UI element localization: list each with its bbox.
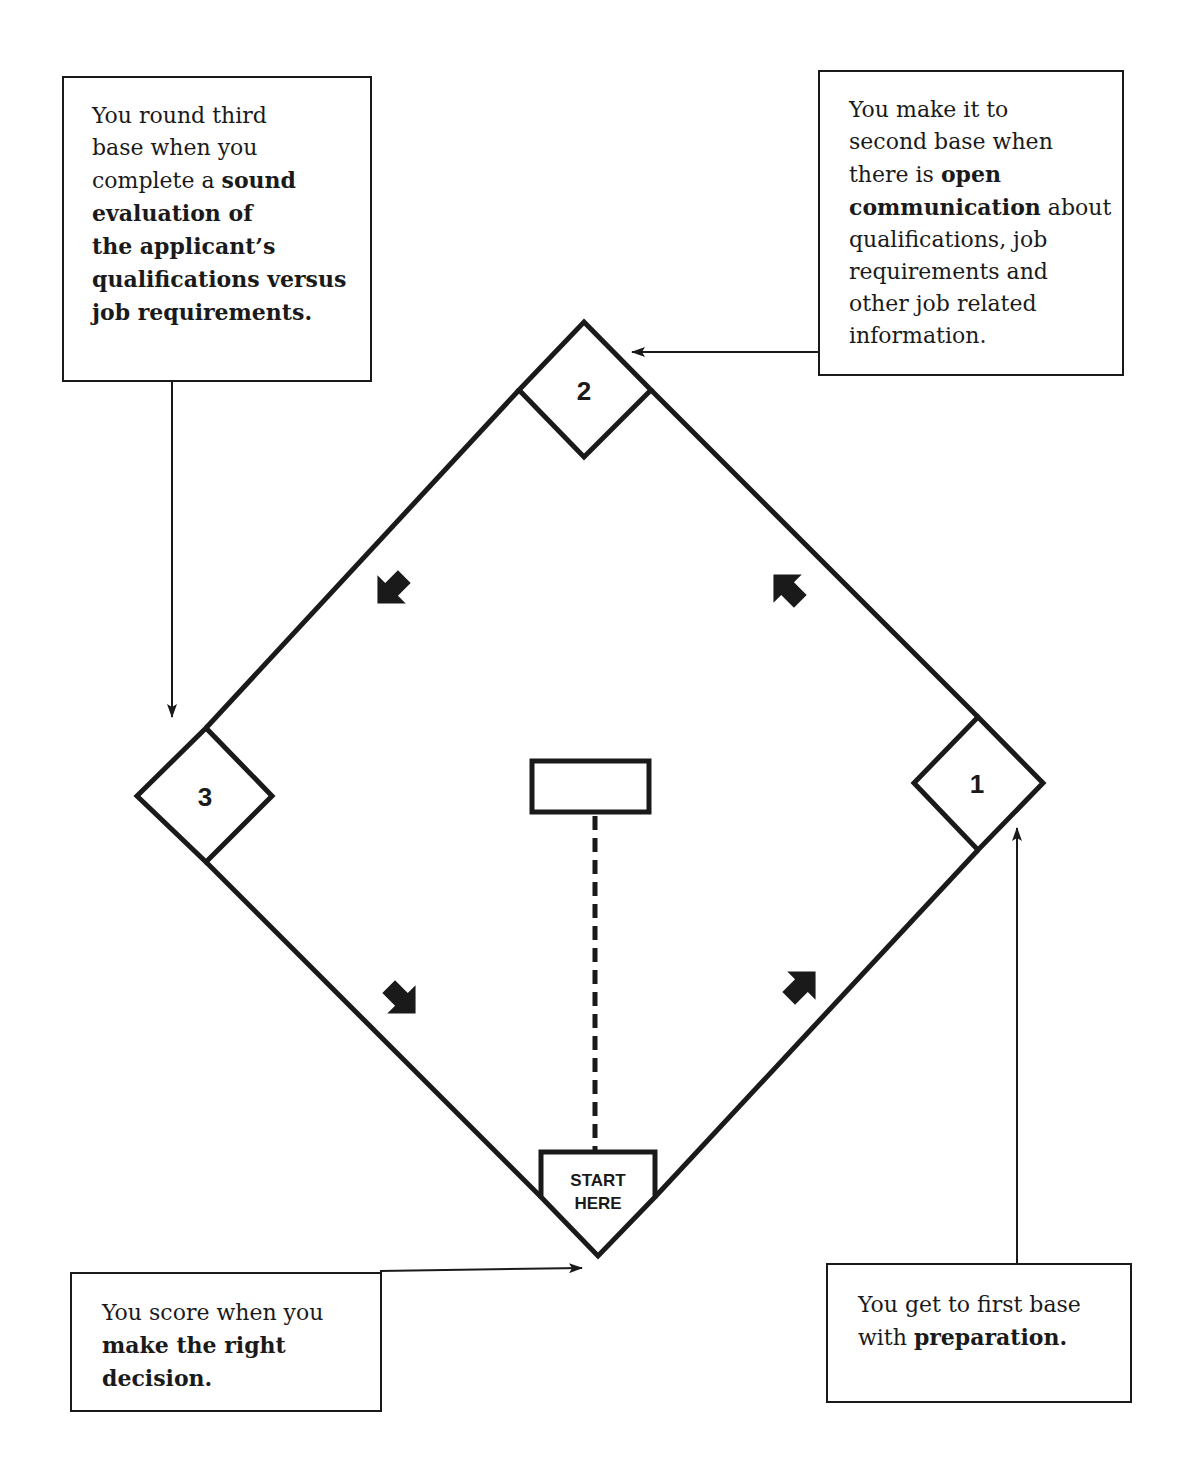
second-base-label: 2 [577, 376, 591, 406]
first-base[interactable]: 1 [914, 717, 1043, 850]
callout-line: decision. [102, 1362, 380, 1395]
callout-first-base: You get to first basewith preparation. [826, 1263, 1132, 1403]
pitchers-mound [532, 761, 649, 812]
callout-line: You get to first base [858, 1289, 1130, 1321]
callout-home: You score when youmake the rightdecision… [70, 1272, 382, 1412]
direction-arrow-icon [775, 957, 830, 1012]
callout-line: evaluation of [92, 197, 370, 230]
third-base[interactable]: 3 [137, 728, 272, 862]
direction-arrow-icon [375, 973, 430, 1028]
second-base[interactable]: 2 [519, 322, 651, 457]
callout-second-base: You make it tosecond base whenthere is o… [818, 70, 1124, 376]
direction-arrow-icon [759, 560, 814, 615]
home-plate-label-line2: HERE [574, 1194, 621, 1213]
callout-line: base when you [92, 132, 370, 164]
callout-line: job requirements. [92, 296, 370, 329]
callout-line: with preparation. [858, 1321, 1130, 1354]
callout-line: You round third [92, 100, 370, 132]
callout-line: there is open [849, 158, 1122, 191]
callout-line: complete a sound [92, 164, 370, 197]
callout-third-base: You round thirdbase when youcomplete a s… [62, 76, 372, 382]
home-plate-label-line1: START [570, 1171, 626, 1190]
callout-line: the applicant’s [92, 230, 370, 263]
callout-line: other job related [849, 288, 1122, 320]
callout-line: qualifications versus [92, 263, 370, 296]
callout-line: requirements and [849, 256, 1122, 288]
callout-line: You make it to [849, 94, 1122, 126]
connector-home [380, 1268, 582, 1271]
callout-line: qualifications, job [849, 224, 1122, 256]
callout-line: information. [849, 320, 1122, 352]
callout-line: second base when [849, 126, 1122, 158]
callout-line: communication about [849, 191, 1122, 224]
first-base-label: 1 [970, 769, 984, 799]
callout-line: You score when you [102, 1297, 380, 1329]
callout-line: make the right [102, 1329, 380, 1362]
third-base-label: 3 [198, 782, 212, 812]
home-plate[interactable]: START HERE [541, 1152, 655, 1256]
direction-arrow-icon [363, 563, 418, 618]
